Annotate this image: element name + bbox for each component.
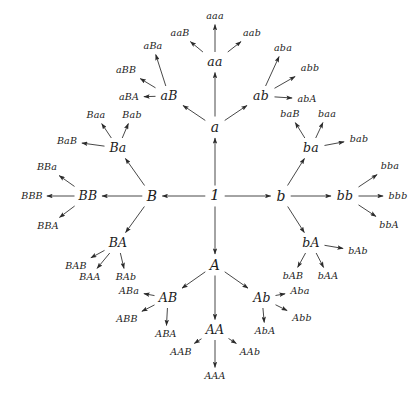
graph-node-Aba: Aba (290, 286, 309, 296)
graph-edge (144, 294, 155, 296)
graph-node-BAA: BAA (79, 272, 100, 282)
graph-edge (288, 207, 305, 233)
graph-edge (126, 207, 145, 233)
graph-node-AAB: AAB (170, 347, 191, 357)
graph-node-aa: aa (207, 56, 222, 69)
graph-edge (325, 142, 345, 146)
graph-edge (295, 123, 305, 138)
graph-node-Abb: Abb (292, 313, 312, 323)
graph-node-ab: ab (253, 90, 269, 103)
graph-node-a: a (211, 120, 220, 134)
graph-node-bbA: bbA (379, 220, 399, 230)
graph-edge (316, 123, 323, 138)
graph-node-BBA: BBA (37, 221, 58, 231)
graph-edge (228, 42, 241, 52)
graph-node-aaB: aaB (171, 28, 190, 38)
graph-node-ABa: ABa (119, 286, 139, 296)
graph-node-BBB: BBB (21, 191, 43, 201)
graph-node-aab: aab (243, 28, 261, 38)
graph-node-Bab: Bab (122, 110, 141, 120)
graph-node-b: b (276, 189, 285, 203)
graph-edge (156, 55, 166, 86)
graph-node-BA: BA (109, 237, 128, 250)
graph-edge (166, 308, 167, 325)
graph-edge (225, 105, 247, 120)
graph-node-aaa: aaa (206, 11, 224, 21)
graph-node-AAb: AAb (240, 347, 260, 357)
graph-node-bab: bab (350, 134, 368, 144)
graph-node-AB: AB (159, 292, 178, 305)
graph-node-root: 1 (210, 188, 220, 204)
graph-node-Ba: Ba (109, 142, 126, 155)
graph-edge (225, 272, 248, 288)
graph-node-AA: AA (206, 324, 224, 337)
graph-edge (190, 42, 203, 52)
graph-node-BBa: BBa (37, 162, 57, 172)
graph-node-ba: ba (303, 142, 319, 155)
graph-edge (276, 305, 288, 311)
graph-node-aBa: aBa (144, 41, 163, 51)
cayley-graph-figure: 1abABaBaaabbabbbAABAAAbBaBBBAaaBaaaaabaB… (0, 0, 419, 396)
graph-node-BAB: BAB (65, 261, 86, 271)
graph-edge (120, 253, 124, 268)
graph-node-bAB: bAB (283, 271, 304, 281)
graph-node-aBA: aBA (119, 92, 139, 102)
graph-node-baB: baB (280, 109, 299, 119)
graph-edge (140, 79, 155, 88)
graph-node-baa: baa (318, 109, 336, 119)
graph-edge (359, 205, 376, 217)
graph-edge (142, 305, 155, 311)
graph-node-B: B (147, 189, 158, 203)
graph-node-bba: bba (381, 161, 399, 171)
graph-node-bA: bA (302, 237, 319, 250)
graph-node-bb: bb (337, 190, 353, 203)
graph-edge (298, 253, 306, 267)
graph-node-bAA: bAA (318, 271, 338, 281)
graph-node-abA: abA (297, 94, 316, 104)
graph-edge (122, 124, 128, 138)
graph-node-ABB: ABB (116, 314, 137, 324)
graph-edge (325, 245, 344, 248)
graph-edge (194, 339, 201, 344)
graph-node-A: A (210, 258, 220, 272)
graph-node-bAb: bAb (348, 246, 368, 256)
graph-node-aBB: aBB (116, 65, 136, 75)
graph-edge (275, 77, 296, 89)
graph-node-ABA: ABA (155, 329, 176, 339)
graph-edge (59, 176, 74, 187)
graph-edge (276, 294, 286, 296)
graph-edge (183, 105, 205, 120)
graph-node-Baa: Baa (87, 110, 106, 120)
graph-edge (316, 253, 323, 267)
graph-node-AAA: AAA (204, 371, 225, 381)
graph-node-BaB: BaB (57, 136, 77, 146)
graph-edge (97, 253, 110, 268)
graph-node-Ab: Ab (253, 292, 270, 305)
graph-node-BAb: BAb (116, 272, 137, 282)
graph-edge (275, 97, 293, 98)
graph-edge (263, 308, 264, 322)
graph-edge (125, 159, 144, 186)
graph-node-abb: abb (301, 63, 319, 73)
graph-node-BB: BB (79, 190, 98, 203)
graph-node-AbA: AbA (255, 326, 275, 336)
graph-edge (359, 175, 378, 187)
graph-edge (59, 206, 74, 217)
graph-node-aB: aB (160, 90, 177, 103)
graph-edge (102, 124, 112, 138)
graph-edge (288, 159, 305, 186)
graph-node-aba: aba (274, 43, 292, 53)
graph-edge (182, 272, 205, 288)
graph-edge (91, 250, 105, 257)
graph-node-bbb: bbb (389, 191, 408, 201)
graph-edge (266, 57, 279, 86)
graph-edge (229, 338, 237, 343)
graph-edge (82, 143, 105, 146)
